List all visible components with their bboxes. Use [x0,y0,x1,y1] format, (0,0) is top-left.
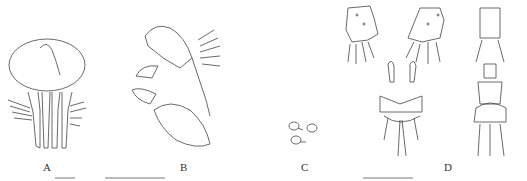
panel-a-drawing [0,0,110,160]
panel-d-drawing [340,0,527,160]
panel-a: A [0,0,110,170]
panel-b: B [120,0,230,170]
panel-c: C [280,0,340,170]
caption-fragment [55,177,75,179]
panel-label-c: C [301,161,308,173]
caption-fragment [363,177,413,179]
panel-b-drawing [120,0,230,160]
panel-label-a: A [43,161,51,173]
caption-fragment [105,177,165,179]
panel-c-drawing [280,0,340,160]
panel-d: D [340,0,527,170]
figure-caption-clipped [55,176,455,181]
panel-label-d: D [444,161,452,173]
panel-label-b: B [180,161,187,173]
